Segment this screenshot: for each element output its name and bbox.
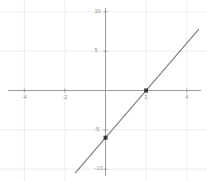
axis-lines [8,8,201,176]
data-point-marker [104,136,108,140]
x-axis-tick-label: 2 [145,95,148,101]
data-point-marker [144,89,148,93]
plot-area [0,0,207,181]
y-axis-tick-label: 10 [95,9,101,15]
x-axis-tick-label: -4 [22,95,27,101]
y-axis-tick-label: -5 [95,127,100,133]
line-chart: -4-224105-5-10 [0,0,207,181]
x-axis-tick-label: 4 [185,95,188,101]
x-axis-tick-label: -2 [62,95,67,101]
y-axis-tick-label: -10 [95,166,103,172]
y-axis-tick-label: 5 [95,48,98,54]
